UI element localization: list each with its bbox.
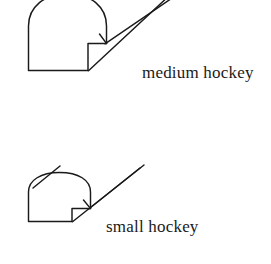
medium-hockey-shape — [29, 0, 179, 71]
medium-hockey-outline — [29, 0, 107, 71]
caption-small-hockey: small hockey — [106, 218, 199, 235]
small-hockey-stick-lower — [89, 168, 140, 209]
medium-hockey-blade-tick — [100, 34, 107, 44]
small-hockey-blade-tick — [84, 200, 91, 209]
caption-medium-hockey: medium hockey — [142, 64, 254, 81]
small-hockey-shape — [29, 165, 145, 222]
